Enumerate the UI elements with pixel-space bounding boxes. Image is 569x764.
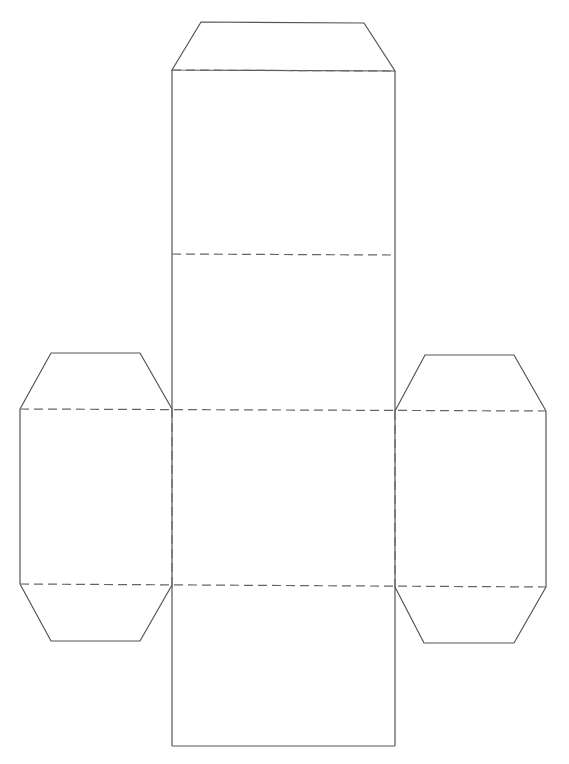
center-fold-lines: [172, 70, 395, 255]
fold-line-upper: [172, 254, 395, 255]
top-tab: [172, 22, 395, 71]
fold-line-middle-top: [20, 409, 546, 411]
left-bottom-tab: [20, 584, 172, 641]
vertical-fold-lines: [172, 409, 395, 587]
horizontal-fold-lines: [20, 409, 546, 587]
right-flap: [395, 355, 546, 643]
box-net-diagram: [0, 0, 569, 764]
center-column: [172, 22, 395, 746]
left-top-tab: [20, 353, 172, 409]
fold-line-middle-bottom: [20, 584, 546, 587]
right-top-tab: [395, 355, 546, 411]
left-flap: [20, 353, 172, 641]
right-bottom-tab: [395, 587, 546, 643]
